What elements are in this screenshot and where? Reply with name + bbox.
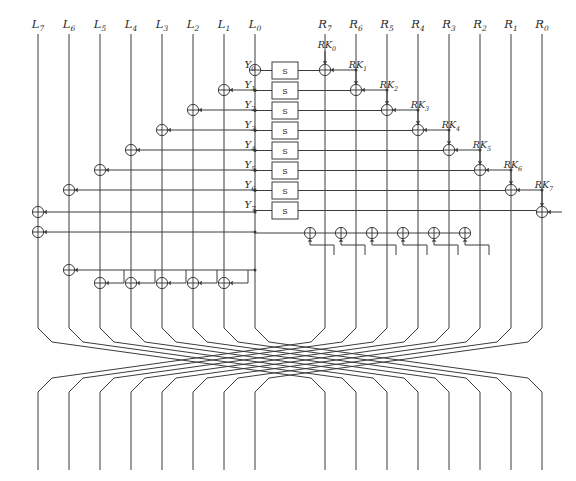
right-bottom-xor-5 xyxy=(459,227,470,238)
left-xor-3 xyxy=(156,124,167,135)
sbox-label-5: S xyxy=(282,167,287,176)
round-key-xor-4 xyxy=(443,144,454,155)
left-input-label-L4: L4 xyxy=(124,17,138,33)
round-key-xor-7 xyxy=(536,206,547,217)
round-key-xor-3 xyxy=(412,124,423,135)
round-key-label-RK6: RK6 xyxy=(503,159,522,173)
left-bottom-lead-tap xyxy=(254,269,257,272)
left-bottom-hook-0 xyxy=(109,270,124,283)
left-input-label-L0: L0 xyxy=(248,17,262,33)
sbox-label-4: S xyxy=(282,147,287,156)
left-bottom-xor-3 xyxy=(187,277,198,288)
left-xor-4 xyxy=(125,144,136,155)
left-input-label-L3: L3 xyxy=(155,17,169,33)
left-xor-1 xyxy=(218,84,229,95)
right-bottom-xor-1 xyxy=(335,227,346,238)
sbox-label-2: S xyxy=(282,107,287,116)
left-bottom-xor-4 xyxy=(218,277,229,288)
left-bottom-lead-xor xyxy=(63,264,74,275)
right-bottom-xor-4 xyxy=(428,227,439,238)
round-key-label-RK2: RK2 xyxy=(379,79,398,93)
left-bottom-hook-3 xyxy=(202,270,217,283)
left-bottom-xor-0 xyxy=(94,277,105,288)
round-key-xor-5 xyxy=(474,164,485,175)
sbox-input-label-Y0: Y0 xyxy=(245,59,257,73)
sbox-input-label-Y5: Y5 xyxy=(245,159,256,173)
left-bottom-hook-1 xyxy=(140,270,155,283)
round-key-label-RK3: RK3 xyxy=(410,99,429,113)
left-input-label-L5: L5 xyxy=(93,17,107,33)
round-key-label-RK5: RK5 xyxy=(472,139,491,153)
right-bottom-hook-0 xyxy=(310,242,334,255)
sbox-label-7: S xyxy=(282,207,287,216)
round-key-label-RK1: RK1 xyxy=(348,59,367,73)
left-input-label-L1: L1 xyxy=(217,17,230,33)
right-bottom-hook-5 xyxy=(465,242,489,255)
left-xor-7 xyxy=(32,206,43,217)
right-input-label-R0: R0 xyxy=(534,17,549,33)
right-bottom-hook-2 xyxy=(372,242,396,255)
right-bottom-hook-3 xyxy=(403,242,427,255)
right-input-label-R6: R6 xyxy=(348,17,363,33)
left-xor-6 xyxy=(63,184,74,195)
round-key-label-RK0: RK0 xyxy=(317,39,336,53)
wire-layer xyxy=(38,34,562,470)
sbox-input-label-Y6: Y6 xyxy=(245,179,257,193)
left-xor-8 xyxy=(32,226,43,237)
right-bottom-hook-4 xyxy=(434,242,458,255)
sbox-input-label-Y4: Y4 xyxy=(245,139,256,153)
left-input-label-L2: L2 xyxy=(186,17,200,33)
right-input-label-R1: R1 xyxy=(503,17,517,33)
left-bottom-hook-4 xyxy=(233,270,248,283)
right-bottom-hook-1 xyxy=(341,242,365,255)
cipher-round-diagram: SSSSSSSS L7L6L5L4L3L2L1L0R7R6R5R4R3R2R1R… xyxy=(0,0,576,481)
sbox-input-label-Y7: Y7 xyxy=(245,199,257,213)
left-input-label-L6: L6 xyxy=(62,17,76,33)
round-key-label-RK7: RK7 xyxy=(534,179,554,193)
sbox-layer: SSSSSSSS xyxy=(272,62,298,219)
right-input-label-R2: R2 xyxy=(472,17,487,33)
sbox-input-label-Y2: Y2 xyxy=(245,99,256,113)
right-input-label-R7: R7 xyxy=(317,17,332,33)
left-xor-2 xyxy=(187,104,198,115)
left-bottom-hook-2 xyxy=(171,270,186,283)
sbox-label-0: S xyxy=(282,67,287,76)
right-bottom-xor-0 xyxy=(304,227,315,238)
sbox-label-3: S xyxy=(282,127,287,136)
right-input-label-R4: R4 xyxy=(410,17,425,33)
sbox-label-1: S xyxy=(282,87,287,96)
left-input-label-L7: L7 xyxy=(31,17,45,33)
left-xor-5 xyxy=(94,164,105,175)
right-bottom-xor-3 xyxy=(397,227,408,238)
left-bottom-xor-1 xyxy=(125,277,136,288)
figure-canvas: SSSSSSSS L7L6L5L4L3L2L1L0R7R6R5R4R3R2R1R… xyxy=(0,0,576,481)
sbox-label-6: S xyxy=(282,187,287,196)
round-key-label-RK4: RK4 xyxy=(441,119,460,133)
right-input-label-R3: R3 xyxy=(441,17,456,33)
left-bottom-xor-2 xyxy=(156,277,167,288)
sbox-input-label-Y1: Y1 xyxy=(245,79,256,93)
round-key-xor-6 xyxy=(505,184,516,195)
right-bottom-xor-2 xyxy=(366,227,377,238)
round-key-xor-2 xyxy=(381,104,392,115)
right-input-label-R5: R5 xyxy=(379,17,394,33)
round-key-xor-1 xyxy=(350,84,361,95)
sbox-input-label-Y3: Y3 xyxy=(245,119,256,133)
round-key-xor-0 xyxy=(319,64,330,75)
